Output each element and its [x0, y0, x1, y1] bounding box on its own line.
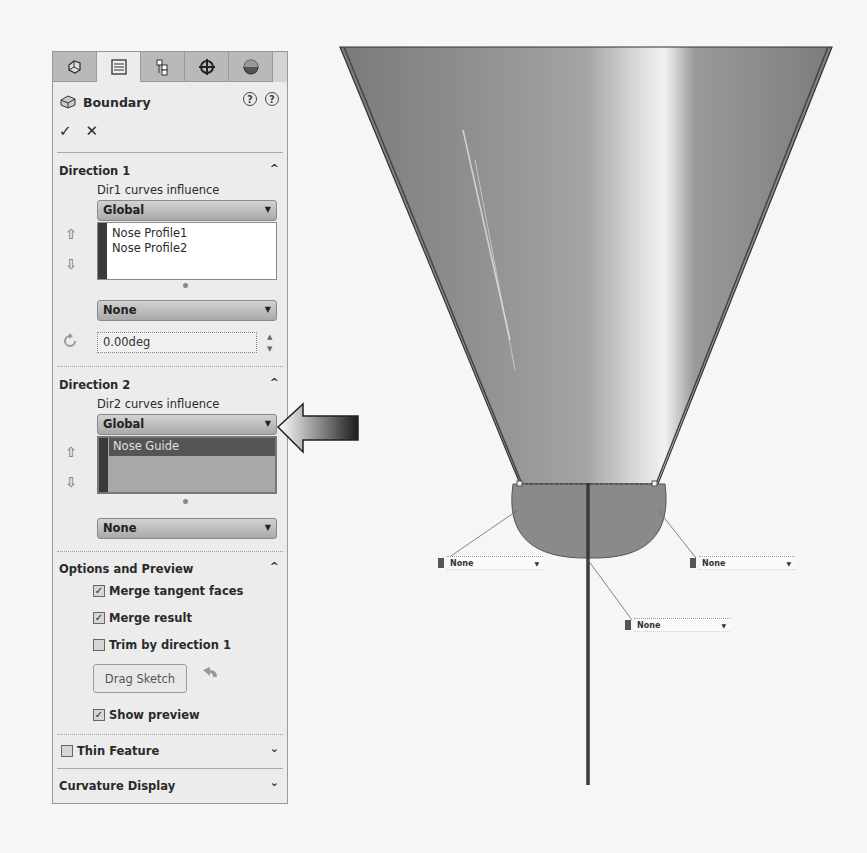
- checkbox-box[interactable]: ✓: [93, 612, 105, 624]
- tab-dimxpert-manager[interactable]: [185, 52, 229, 82]
- ok-button[interactable]: ✓: [59, 122, 72, 140]
- move-up-icon[interactable]: ⇧: [65, 444, 77, 460]
- options-title: Options and Preview: [59, 562, 193, 576]
- dir2-influence-label: Dir2 curves influence: [97, 397, 219, 411]
- connector-tangency-tag-left[interactable]: None ▼: [438, 555, 543, 571]
- checkbox-label: Show preview: [109, 708, 200, 722]
- dir2-influence-value: Global: [103, 417, 144, 431]
- move-down-icon[interactable]: ⇩: [65, 256, 77, 272]
- move-up-icon[interactable]: ⇧: [65, 226, 77, 242]
- resize-handle[interactable]: [183, 499, 188, 504]
- help-icon[interactable]: ?: [265, 92, 279, 106]
- thin-feature-label: Thin Feature: [77, 744, 159, 758]
- dir1-tangency-value: None: [103, 303, 137, 317]
- curvature-display-expand-icon[interactable]: ⌄: [270, 776, 279, 789]
- checkbox-label: Trim by direction 1: [109, 638, 231, 652]
- list-item[interactable]: Nose Profile2: [112, 241, 187, 256]
- dropdown-arrow-icon: ▼: [534, 560, 539, 567]
- dir2-curves-list[interactable]: Nose Guide: [97, 436, 277, 494]
- dimxpert-icon: [197, 57, 217, 77]
- merge-result-checkbox[interactable]: ✓ Merge result: [93, 611, 192, 625]
- checkbox-label: Merge tangent faces: [109, 584, 243, 598]
- divider: [57, 366, 283, 367]
- list-item[interactable]: Nose Profile1: [112, 226, 187, 241]
- dropdown-arrow-icon: ▼: [265, 305, 271, 314]
- dir1-influence-label: Dir1 curves influence: [97, 183, 219, 197]
- feature-header: Boundary ? ?: [59, 90, 281, 114]
- tab-feature-manager[interactable]: [53, 52, 97, 82]
- angle-spinner[interactable]: ▲▼: [267, 334, 272, 352]
- checkbox-label: Merge result: [109, 611, 192, 625]
- dir2-tangency-value: None: [103, 521, 137, 535]
- move-down-icon[interactable]: ⇩: [65, 474, 77, 490]
- color-swatch: [625, 620, 631, 630]
- dir1-influence-value: Global: [103, 203, 144, 217]
- graphics-area[interactable]: None ▼ None ▼ None ▼: [330, 40, 850, 800]
- dropdown-arrow-icon: ▼: [265, 419, 271, 428]
- resize-handle[interactable]: [183, 283, 188, 288]
- thin-feature-checkbox[interactable]: Thin Feature: [61, 744, 159, 758]
- connector-tangency-tag-bottom[interactable]: None ▼: [625, 617, 730, 633]
- property-manager-icon: [109, 57, 129, 77]
- color-swatch: [690, 558, 696, 568]
- dir1-tangency-dropdown[interactable]: None ▼: [97, 300, 277, 321]
- dir1-curves-list[interactable]: Nose Profile1 Nose Profile2: [97, 222, 277, 280]
- thin-feature-expand-icon[interactable]: ⌄: [270, 742, 279, 755]
- dropdown-arrow-icon: ▼: [265, 205, 271, 214]
- undo-sketch-drag-icon[interactable]: [199, 664, 221, 684]
- dropdown-arrow-icon: ▼: [265, 523, 271, 532]
- manager-tabs: [53, 52, 287, 82]
- divider: [57, 734, 283, 735]
- divider: [57, 768, 283, 769]
- configuration-manager-icon: [153, 57, 173, 77]
- curvature-display-title[interactable]: Curvature Display: [59, 779, 175, 793]
- property-manager-panel: Boundary ? ? ✓ ✕ Direction 1 ^ Dir1 curv…: [52, 51, 288, 804]
- dropdown-arrow-icon: ▼: [721, 622, 726, 629]
- list-item[interactable]: Nose Guide: [113, 439, 179, 454]
- direction2-title: Direction 2: [59, 378, 130, 392]
- tag-value: None: [637, 621, 660, 630]
- tab-display-manager[interactable]: [229, 52, 273, 82]
- checkbox-box[interactable]: ✓: [93, 709, 105, 721]
- selection-color-bar: [99, 438, 108, 492]
- merge-tangent-faces-checkbox[interactable]: ✓ Merge tangent faces: [93, 584, 243, 598]
- tag-value: None: [450, 559, 473, 568]
- draft-angle-input[interactable]: 0.00deg: [97, 332, 257, 353]
- display-manager-icon: [241, 57, 261, 77]
- checkbox-box[interactable]: [93, 639, 105, 651]
- divider: [57, 551, 283, 552]
- selection-color-bar: [98, 223, 107, 279]
- checkbox-box[interactable]: [61, 745, 73, 757]
- drag-sketch-button[interactable]: Drag Sketch: [93, 664, 187, 693]
- trim-by-direction1-checkbox[interactable]: Trim by direction 1: [93, 638, 231, 652]
- color-swatch: [438, 558, 444, 568]
- options-collapse-icon[interactable]: ^: [270, 560, 279, 573]
- show-preview-checkbox[interactable]: ✓ Show preview: [93, 708, 200, 722]
- rotate-angle-icon: [61, 332, 79, 350]
- dir2-tangency-dropdown[interactable]: None ▼: [97, 518, 277, 539]
- detailed-preview-help-icon[interactable]: ?: [243, 92, 257, 106]
- tag-value: None: [702, 559, 725, 568]
- divider: [57, 152, 283, 153]
- boundary-surface-preview: [330, 40, 850, 800]
- tab-property-manager[interactable]: [97, 52, 141, 82]
- tab-configuration-manager[interactable]: [141, 52, 185, 82]
- feature-title: Boundary: [83, 95, 151, 110]
- boundary-feature-icon: [59, 94, 77, 110]
- connector-tangency-tag-right[interactable]: None ▼: [690, 555, 795, 571]
- dir1-influence-dropdown[interactable]: Global ▼: [97, 200, 277, 221]
- direction2-collapse-icon[interactable]: ^: [270, 376, 279, 389]
- dropdown-arrow-icon: ▼: [786, 560, 791, 567]
- checkbox-box[interactable]: ✓: [93, 585, 105, 597]
- feature-manager-icon: [65, 57, 85, 77]
- cancel-button[interactable]: ✕: [86, 122, 99, 140]
- direction1-collapse-icon[interactable]: ^: [270, 162, 279, 175]
- direction1-title: Direction 1: [59, 164, 130, 178]
- dir2-influence-dropdown[interactable]: Global ▼: [97, 414, 277, 435]
